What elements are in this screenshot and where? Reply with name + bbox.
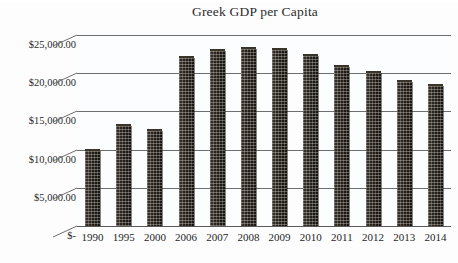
x-axis-tick-label: 2011: [325, 231, 359, 243]
scan-edge: [0, 0, 458, 2]
gridline: [77, 150, 451, 151]
bar: [147, 131, 162, 226]
gridline: [77, 111, 451, 112]
bar: [241, 49, 256, 226]
axis-tick-leader: [53, 226, 75, 240]
axis-tick-leader: [53, 188, 75, 202]
plot-background: [77, 35, 451, 226]
x-axis-tick-label: 2008: [231, 231, 265, 243]
gridline: [77, 73, 451, 74]
bar: [303, 56, 318, 226]
chart-title: Greek GDP per Capita: [0, 4, 458, 20]
bar: [210, 51, 225, 226]
x-axis-tick-label: 1995: [107, 231, 141, 243]
axis-tick-leader: [53, 35, 75, 49]
gridline: [77, 226, 451, 227]
x-axis-tick-label: 2007: [200, 231, 234, 243]
gridline: [77, 35, 451, 36]
bar: [179, 58, 194, 226]
bar: [397, 82, 412, 226]
x-axis-tick-label: 2006: [169, 231, 203, 243]
axis-tick-leader: [53, 111, 75, 125]
x-axis-tick-label: 2014: [418, 231, 452, 243]
x-axis-tick-label: 2000: [138, 231, 172, 243]
x-axis-tick-label: 2013: [387, 231, 421, 243]
x-axis: 1990199520002006200720082009201020112012…: [77, 231, 451, 251]
bar: [85, 151, 100, 226]
chart-container: Greek GDP per Capita $25,000.00$20,000.0…: [0, 0, 458, 263]
bar: [366, 73, 381, 226]
x-axis-tick-label: 1990: [76, 231, 110, 243]
x-axis-tick-label: 2012: [356, 231, 390, 243]
bar: [428, 86, 443, 226]
bar: [272, 50, 287, 226]
plot-area: [77, 35, 451, 226]
bar: [116, 126, 131, 226]
x-axis-tick-label: 2010: [294, 231, 328, 243]
axis-tick-leader: [53, 73, 75, 87]
axis-tick-leader: [53, 150, 75, 164]
bar: [334, 67, 349, 226]
gridline: [77, 188, 451, 189]
x-axis-tick-label: 2009: [263, 231, 297, 243]
